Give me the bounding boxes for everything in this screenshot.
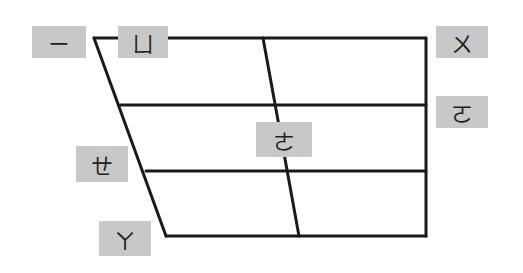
label-yu: ㄩ (118, 26, 168, 58)
front-edge (94, 38, 166, 236)
label-e: ㄜ (256, 122, 312, 157)
label-u: ㄨ (436, 26, 488, 58)
label-a: ㄚ (99, 221, 151, 256)
label-o: ㄛ (436, 96, 488, 128)
label-eh: ㄝ (76, 146, 128, 182)
label-i: ㄧ (32, 26, 86, 58)
